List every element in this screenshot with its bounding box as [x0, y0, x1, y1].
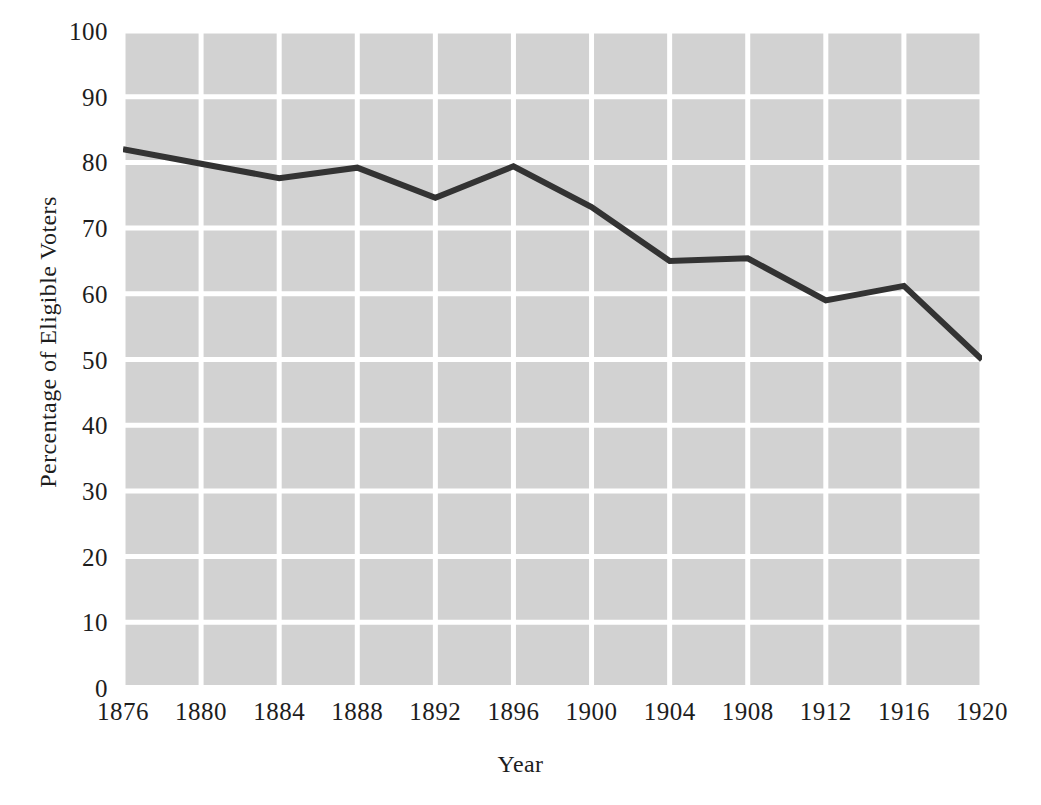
y-axis-title: Percentage of Eligible Voters: [36, 142, 60, 542]
y-tick-30: 30: [82, 479, 108, 504]
turnout-data-line: [123, 149, 982, 359]
x-tick-1908: 1908: [722, 699, 774, 724]
x-tick-1880: 1880: [175, 699, 227, 724]
x-tick-1892: 1892: [409, 699, 461, 724]
x-tick-1876: 1876: [97, 699, 149, 724]
x-axis-title: Year: [0, 752, 1041, 776]
y-tick-20: 20: [82, 545, 108, 570]
x-tick-1904: 1904: [644, 699, 696, 724]
x-tick-1888: 1888: [331, 699, 383, 724]
y-tick-100: 100: [69, 19, 108, 44]
x-axis-tick-labels: 1876 1880 1884 1888 1892 1896 1900 1904 …: [0, 699, 1041, 739]
y-tick-70: 70: [82, 216, 108, 241]
x-tick-1912: 1912: [800, 699, 852, 724]
x-tick-1920: 1920: [956, 699, 1008, 724]
y-tick-60: 60: [82, 282, 108, 307]
y-tick-80: 80: [82, 150, 108, 175]
y-tick-40: 40: [82, 413, 108, 438]
y-tick-50: 50: [82, 348, 108, 373]
y-tick-90: 90: [82, 85, 108, 110]
horizontal-gridlines: [123, 31, 982, 688]
x-tick-1900: 1900: [566, 699, 618, 724]
x-tick-1916: 1916: [878, 699, 930, 724]
plot-svg: [123, 31, 982, 688]
plot-area: [123, 31, 982, 688]
voter-turnout-line-chart: 100 90 80 70 60 50 40 30 20 10 0 1876 18…: [0, 0, 1041, 805]
x-tick-1896: 1896: [487, 699, 539, 724]
x-tick-1884: 1884: [253, 699, 305, 724]
y-tick-10: 10: [82, 610, 108, 635]
